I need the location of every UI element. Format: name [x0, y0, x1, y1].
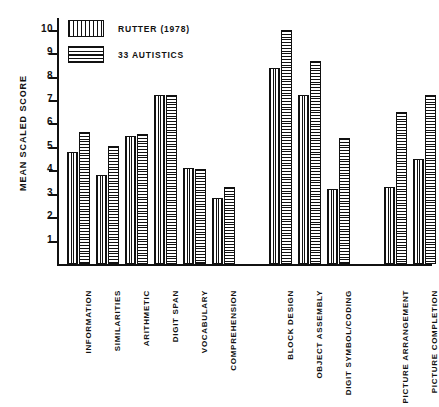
category-label: DIGIT SPAN — [171, 290, 180, 342]
bar-rutter — [384, 187, 395, 264]
bar-autistics — [281, 30, 292, 264]
y-tick-label: 9 — [47, 46, 53, 57]
category-label: ARITHMETIC — [142, 290, 151, 346]
y-axis-title: MEAN SCALED SCORE — [18, 58, 28, 208]
bar-autistics — [425, 95, 436, 264]
category-label: PICTURE ARRANGEMENT — [401, 290, 410, 403]
bar-rutter — [298, 95, 309, 264]
bar-rutter — [183, 168, 194, 264]
category-label: PICTURE COMPLETION — [430, 290, 439, 393]
category-label: COMPREHENSION — [229, 290, 238, 371]
category-label: SIMILARITIES — [113, 290, 122, 351]
plot-area: 12345678910 INFORMATIONSIMILARITIESARITH… — [57, 18, 432, 266]
category-label: BLOCK DESIGN — [286, 290, 295, 360]
x-axis-baseline — [57, 264, 432, 266]
bar-rutter — [154, 95, 165, 264]
y-tick-label: 6 — [47, 116, 53, 127]
y-tick-label: 4 — [47, 163, 53, 174]
legend-swatch-horizontal-stripes — [68, 46, 104, 63]
legend-swatch-vertical-stripes — [68, 20, 104, 37]
bar-autistics — [310, 61, 321, 264]
bar-autistics — [137, 134, 148, 264]
bar-autistics — [195, 169, 206, 264]
bar-rutter — [212, 198, 223, 264]
bar-rutter — [327, 189, 338, 264]
bar-rutter — [67, 152, 78, 264]
bar-rutter — [125, 136, 136, 264]
bar-rutter — [269, 68, 280, 264]
bar-autistics — [396, 112, 407, 264]
category-label: OBJECT ASSEMBLY — [315, 290, 324, 379]
bar-autistics — [108, 146, 119, 264]
category-label: VOCABULARY — [200, 290, 209, 353]
legend-label-rutter: RUTTER (1978) — [118, 24, 190, 34]
bar-autistics — [224, 187, 235, 264]
category-label: INFORMATION — [84, 290, 93, 354]
bar-autistics — [339, 138, 350, 265]
y-tick-label: 3 — [47, 187, 53, 198]
bar-autistics — [79, 132, 90, 264]
category-label: DIGIT SYMBOL/CODING — [344, 290, 353, 395]
y-tick-label: 5 — [47, 140, 53, 151]
y-tick-label: 7 — [47, 93, 53, 104]
bar-autistics — [166, 95, 177, 264]
bar-rutter — [96, 175, 107, 264]
y-axis-line — [57, 18, 59, 266]
y-tick-label: 2 — [47, 210, 53, 221]
y-tick-label: 10 — [41, 23, 53, 34]
bar-rutter — [413, 159, 424, 264]
y-tick-label: 8 — [47, 70, 53, 81]
y-tick-label: 1 — [47, 234, 53, 245]
legend-label-autistics: 33 AUTISTICS — [118, 50, 184, 60]
